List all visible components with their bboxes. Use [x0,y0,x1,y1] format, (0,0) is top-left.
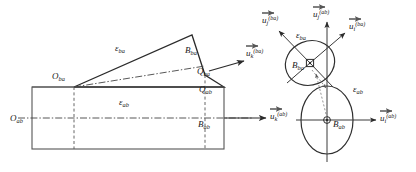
label-point-qab: Qab [199,84,212,95]
label-vector-uk-ab: uk(ab) [270,109,287,122]
label-origin-ba: Oba [52,71,65,82]
figure-root: Oab Oba Bba Qba Qab Bab εba εab uk(ba) u… [0,0,416,172]
label-vector-uj-ba: uj(ba) [262,13,278,26]
svg-text:ui(ab): ui(ab) [380,113,396,124]
svg-text:uj(ab): uj(ab) [313,9,329,20]
label-point-bab: Bab [198,119,210,130]
left-body-group [18,35,266,149]
label-epsilon-ba-right: εba [296,30,306,41]
label-epsilon-ba-left: εba [115,43,125,54]
body-ba-quadrilateral [74,35,224,87]
svg-text:uk(ba): uk(ba) [246,48,263,59]
label-point-qba: Qba [197,66,210,77]
label-epsilon-ab-right: εab [353,84,363,95]
connector-bab-to-bba [316,74,327,118]
vector-uk-ba-arrow [209,61,244,71]
diagram-canvas: Oab Oba Bba Qba Qab Bab εba εab uk(ba) u… [0,0,416,172]
axis-ba-centerline [74,66,205,87]
svg-text:ui(ba): ui(ba) [349,21,365,32]
label-vector-ui-ba: ui(ba) [349,19,365,32]
label-origin-ab: Oab [10,113,23,124]
center-dot-bab [326,119,328,121]
label-ellipse-ab-center: Bab [333,119,345,130]
label-vector-uj-ab: uj(ab) [313,7,329,20]
svg-text:uj(ba): uj(ba) [262,15,278,26]
label-ellipse-ba-center: Bba [292,60,304,71]
label-epsilon-ab-left: εab [119,97,129,108]
svg-text:uk(ab): uk(ab) [270,111,287,122]
label-vector-ui-ab: ui(ab) [380,111,396,124]
label-vector-uk-ba: uk(ba) [246,46,263,59]
center-dot-bba [309,62,311,64]
